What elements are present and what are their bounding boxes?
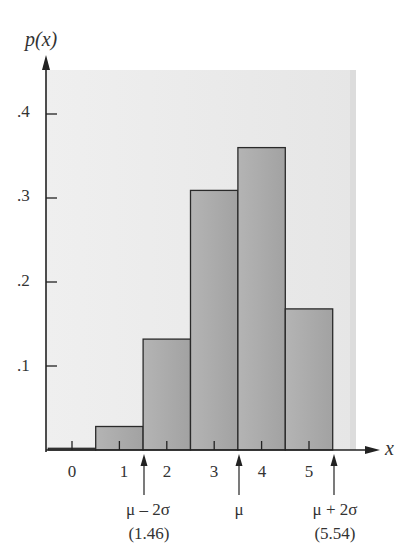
y-tick-label: .4 <box>17 102 30 122</box>
annotation-mu: μ <box>234 500 243 520</box>
annotation-mu-minus-2sigma: μ – 2σ <box>126 500 170 520</box>
y-tick-label: .3 <box>17 186 30 206</box>
x-axis-arrow-icon <box>365 446 380 454</box>
x-axis-label: x <box>385 437 394 460</box>
x-tick-label: 4 <box>258 462 267 482</box>
x-tick-label: 3 <box>210 462 219 482</box>
annotation-mu-plus-2sigma: μ + 2σ <box>313 500 358 520</box>
histogram-bar <box>191 190 238 450</box>
arrowhead-icon <box>331 454 338 466</box>
panel-edge-shadow <box>350 70 356 450</box>
x-tick-label: 1 <box>120 462 129 482</box>
histogram-bar <box>143 339 190 450</box>
arrowhead-icon <box>141 454 148 466</box>
arrowhead-icon <box>236 454 243 466</box>
histogram-bar <box>285 309 332 450</box>
x-tick-label: 5 <box>305 462 314 482</box>
x-tick-label: 2 <box>163 462 172 482</box>
histogram-bar <box>238 148 285 450</box>
annotation-mu-minus-2sigma-value: (1.46) <box>128 524 169 544</box>
y-tick-label: .1 <box>17 356 30 376</box>
y-axis-label: p(x) <box>25 28 57 51</box>
histogram-chart <box>0 0 409 560</box>
y-axis-arrow-icon <box>42 55 50 70</box>
x-tick-label: 0 <box>68 462 77 482</box>
annotation-mu-plus-2sigma-value: (5.54) <box>314 524 355 544</box>
y-tick-label: .2 <box>17 271 30 291</box>
